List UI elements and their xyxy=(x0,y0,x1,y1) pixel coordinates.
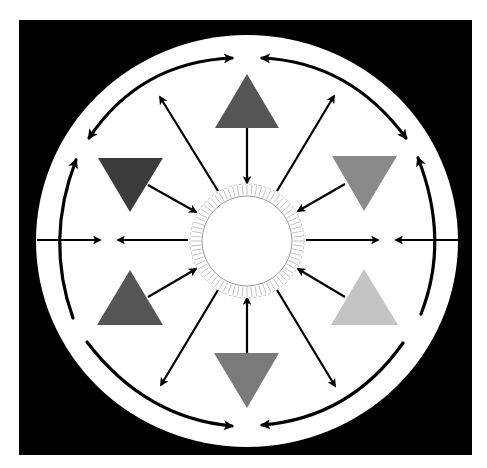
diagram-canvas xyxy=(0,0,487,468)
radial-cycle-diagram xyxy=(0,0,487,468)
hub-inner-circle xyxy=(202,196,292,286)
central-hub xyxy=(190,184,304,298)
